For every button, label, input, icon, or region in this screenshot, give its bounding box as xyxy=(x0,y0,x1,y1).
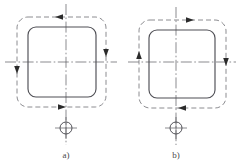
diagram-canvas: a) b xyxy=(0,0,242,167)
caption-a: a) xyxy=(63,150,70,160)
panel-a-arrow-right xyxy=(103,49,109,57)
panel-a-arrow-bottom xyxy=(58,104,66,110)
panel-b-arrow-top xyxy=(186,17,194,23)
caption-b: b) xyxy=(172,150,180,160)
panel-a: a) xyxy=(5,4,117,160)
panel-a-datum-marker xyxy=(55,117,77,139)
panel-b: b) xyxy=(128,7,236,160)
panel-b-datum-marker xyxy=(165,117,187,139)
panel-b-arrow-bottom xyxy=(178,105,186,111)
panel-a-arrow-top xyxy=(55,14,63,20)
panel-b-solid-outline xyxy=(149,30,215,98)
toolpath-diagram-svg: a) b xyxy=(0,0,242,167)
panel-a-arrow-left xyxy=(14,66,20,74)
panel-b-arrow-left xyxy=(136,51,142,59)
